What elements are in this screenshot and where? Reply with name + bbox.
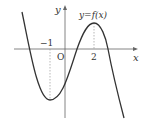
y-axis-label: y <box>54 4 61 15</box>
cubic-curve <box>22 12 124 118</box>
curve-label: y=f(x) <box>78 10 108 20</box>
function-graph: y x O −1 2 y=f(x) <box>0 0 147 125</box>
tick-label-two: 2 <box>91 52 97 62</box>
y-axis-arrow-icon <box>63 5 67 10</box>
x-axis-label: x <box>133 52 139 63</box>
tick-label-minus-one: −1 <box>40 38 53 48</box>
origin-label: O <box>57 52 64 62</box>
x-axis-arrow-icon <box>133 47 138 51</box>
